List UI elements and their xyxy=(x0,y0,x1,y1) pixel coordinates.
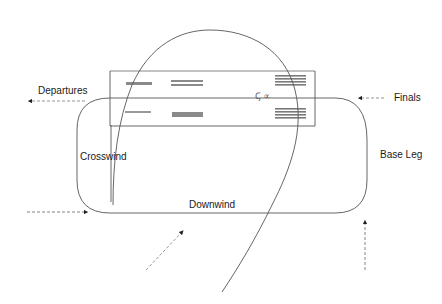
runway-number-marker: Ꞔ ∝ xyxy=(255,92,270,101)
marking-bar xyxy=(275,81,306,83)
marking-bar xyxy=(275,114,306,116)
label-base-leg: Base Leg xyxy=(380,150,422,160)
marking-bar xyxy=(126,82,152,85)
label-crosswind: Crosswind xyxy=(80,152,127,162)
flight-path-curve xyxy=(113,30,298,292)
marking-bar xyxy=(275,117,306,119)
marking-bar xyxy=(275,108,306,110)
entry-arrow-diagonal xyxy=(146,232,182,270)
marking-bar xyxy=(275,84,306,86)
marking-bar xyxy=(172,112,203,117)
marking-bar xyxy=(275,111,306,113)
marking-bar xyxy=(171,84,203,86)
runway-markings xyxy=(125,75,306,119)
label-finals: Finals xyxy=(394,93,421,103)
label-departures: Departures xyxy=(38,86,87,96)
label-downwind: Downwind xyxy=(189,200,235,210)
traffic-circuit-diagram xyxy=(0,0,442,304)
marking-bar xyxy=(171,80,203,82)
marking-bar xyxy=(125,111,151,113)
marking-bar xyxy=(275,78,306,80)
